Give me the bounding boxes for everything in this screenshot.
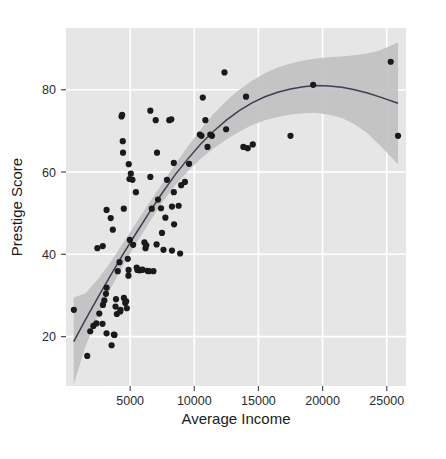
svg-text:60: 60 [42, 166, 56, 180]
svg-text:20: 20 [42, 330, 56, 344]
y-axis-title: Prestige Score [8, 158, 25, 256]
svg-text:25000: 25000 [369, 394, 404, 408]
svg-text:5000: 5000 [116, 394, 144, 408]
svg-text:15000: 15000 [241, 394, 276, 408]
x-axis-title: Average Income [182, 410, 291, 427]
scatter-plot: 500010000150002000025000 20406080 Averag… [0, 0, 446, 459]
chart-container: 500010000150002000025000 20406080 Averag… [0, 0, 446, 459]
svg-text:40: 40 [42, 248, 56, 262]
svg-text:80: 80 [42, 83, 56, 97]
svg-text:10000: 10000 [177, 394, 212, 408]
svg-text:20000: 20000 [305, 394, 340, 408]
